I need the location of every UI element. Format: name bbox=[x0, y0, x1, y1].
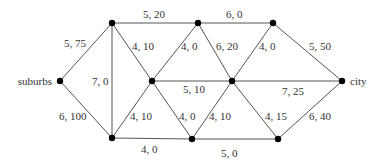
edge-label: 4, 0 bbox=[259, 40, 276, 52]
edge-f-g bbox=[112, 138, 192, 139]
edge-label: 6, 40 bbox=[309, 110, 332, 122]
node-a bbox=[109, 20, 115, 26]
edge-label: 4, 15 bbox=[265, 110, 288, 122]
edge-label: 4, 0 bbox=[141, 143, 158, 155]
edge-label: 5, 10 bbox=[183, 83, 206, 95]
node-d bbox=[149, 78, 155, 84]
edge-label: 5, 0 bbox=[221, 147, 238, 159]
edge-label: 4, 10 bbox=[209, 110, 232, 122]
edge-label: 4, 10 bbox=[130, 110, 153, 122]
node-e bbox=[229, 78, 235, 84]
edge-b-e bbox=[198, 23, 232, 81]
edge-c-city bbox=[273, 23, 342, 81]
edge-label: 5, 75 bbox=[64, 37, 87, 49]
edge-label: 5, 20 bbox=[143, 8, 166, 20]
node-label-city: city bbox=[350, 75, 367, 87]
edge-suburbs-a bbox=[60, 23, 112, 81]
edge-label: 6, 100 bbox=[59, 110, 87, 122]
edge-label: 6, 20 bbox=[216, 40, 239, 52]
flow-network-diagram: 5, 756, 1007, 05, 204, 106, 04, 06, 204,… bbox=[0, 0, 383, 165]
edge-labels: 5, 756, 1007, 05, 204, 106, 04, 06, 204,… bbox=[59, 8, 332, 159]
node-label-suburbs: suburbs bbox=[18, 75, 52, 87]
edge-label: 6, 0 bbox=[226, 8, 243, 20]
edge-label: 4, 0 bbox=[179, 110, 196, 122]
edge-c-e bbox=[232, 23, 273, 81]
edge-label: 7, 0 bbox=[92, 75, 109, 87]
node-g bbox=[189, 136, 195, 142]
edge-b-d bbox=[152, 23, 198, 81]
edge-label: 5, 50 bbox=[309, 40, 332, 52]
node-f bbox=[109, 135, 115, 141]
node-b bbox=[195, 20, 201, 26]
edge-label: 4, 10 bbox=[132, 40, 155, 52]
node-c bbox=[270, 20, 276, 26]
edge-a-d bbox=[112, 23, 152, 81]
node-h bbox=[275, 136, 281, 142]
edge-label: 4, 0 bbox=[181, 40, 198, 52]
node-suburbs bbox=[57, 78, 63, 84]
node-city bbox=[339, 78, 345, 84]
edge-label: 7, 25 bbox=[282, 85, 305, 97]
